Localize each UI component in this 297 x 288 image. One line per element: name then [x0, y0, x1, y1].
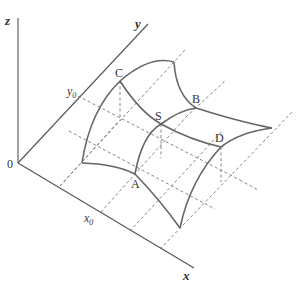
origin-label: 0 — [7, 157, 13, 171]
x-axis-label: x — [182, 268, 190, 283]
y0-label: y0 — [66, 84, 76, 100]
z-axis-label: z — [4, 13, 11, 28]
surface-curves — [82, 61, 272, 228]
point-s-label: S — [155, 109, 162, 123]
point-b-label: B — [192, 92, 200, 106]
point-d-label: D — [215, 131, 224, 145]
point-c-label: C — [115, 66, 123, 80]
y-axis-label: y — [133, 16, 141, 31]
point-a-label: A — [131, 177, 140, 191]
x0-label: x0 — [83, 211, 93, 227]
saddle-surface-figure: z y x 0 y0 x0 C S B D A — [0, 0, 297, 288]
x-axis — [18, 163, 194, 268]
